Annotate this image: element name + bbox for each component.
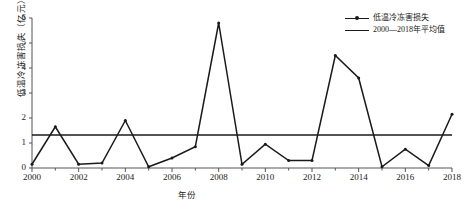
legend-item-average: 2000—2018年平均值	[345, 24, 445, 36]
data-point-marker	[427, 164, 430, 167]
data-point-marker	[264, 143, 267, 146]
data-point-marker	[451, 113, 454, 116]
chart-container: 低温冷冻害损失（亿元） 年份 0123456 20002002200420062…	[0, 0, 467, 210]
data-point-marker	[381, 165, 384, 168]
chart-legend: 低温冷冻害损失 2000—2018年平均值	[345, 12, 445, 36]
data-point-marker	[54, 125, 57, 128]
legend-label-series: 低温冷冻害损失	[373, 12, 429, 24]
legend-line-icon	[345, 25, 369, 35]
data-point-marker	[194, 145, 197, 148]
data-point-marker	[357, 77, 360, 80]
data-point-marker	[241, 163, 244, 166]
data-point-marker	[77, 163, 80, 166]
data-point-marker	[287, 159, 290, 162]
data-point-marker	[124, 119, 127, 122]
data-point-marker	[404, 148, 407, 151]
data-point-marker	[147, 165, 150, 168]
data-line-series	[32, 23, 452, 167]
legend-line-marker-icon	[345, 13, 369, 23]
data-point-marker	[311, 159, 314, 162]
legend-item-series: 低温冷冻害损失	[345, 12, 445, 24]
data-point-marker	[217, 22, 220, 25]
data-point-marker	[171, 157, 174, 160]
legend-label-average: 2000—2018年平均值	[373, 24, 445, 36]
data-point-marker	[334, 54, 337, 57]
data-point-marker	[101, 162, 104, 165]
data-point-marker	[31, 163, 34, 166]
